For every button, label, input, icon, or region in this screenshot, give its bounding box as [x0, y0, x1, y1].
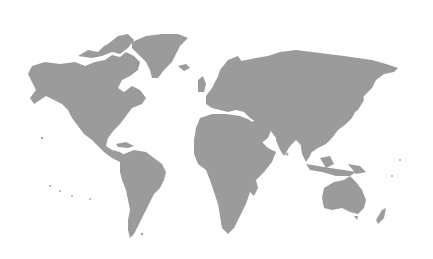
hawaii-island — [41, 137, 43, 139]
uk — [198, 76, 206, 92]
south-america — [120, 150, 166, 238]
falklands — [141, 233, 144, 236]
indonesia — [306, 164, 356, 176]
pacific-island — [391, 175, 393, 177]
iceland — [178, 64, 190, 71]
pacific-island — [71, 195, 73, 197]
world-map — [0, 0, 433, 259]
caribbean — [116, 142, 134, 148]
pacific-island — [49, 185, 51, 187]
pacific-island — [59, 190, 61, 192]
sri-lanka — [286, 153, 289, 156]
baffin-island — [108, 34, 134, 54]
pacific-island — [89, 198, 91, 200]
greenland — [132, 34, 188, 78]
pacific-island — [399, 159, 401, 161]
australia — [322, 176, 366, 214]
borneo — [320, 156, 334, 168]
tasmania — [354, 216, 358, 220]
new-zealand — [376, 208, 386, 224]
